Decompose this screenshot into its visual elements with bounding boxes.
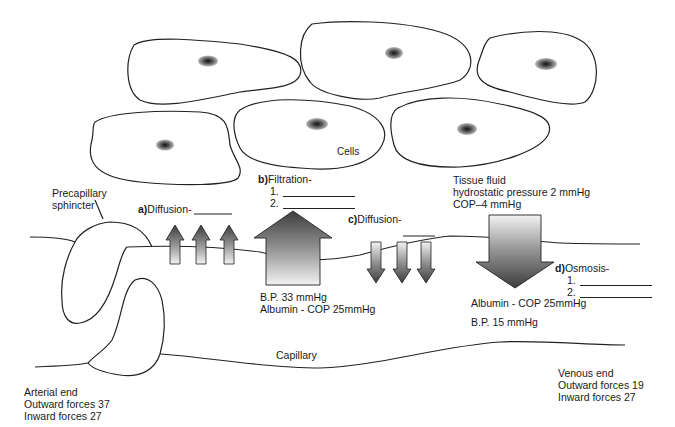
cell-3	[477, 32, 596, 105]
arterial-pressures: B.P. 33 mmHg Albumin - COP 25mmHg	[260, 291, 375, 315]
precapillary-sphincter-label: Precapillary sphincter	[52, 187, 107, 211]
label-b-text: Filtration-	[268, 173, 312, 185]
arrow-up-icon	[192, 225, 210, 264]
filtration-item-2: 2.	[270, 197, 279, 209]
nucleus-icon	[535, 58, 557, 70]
cell-2	[300, 22, 470, 100]
cells-label: Cells	[337, 146, 359, 158]
tissue-cells	[90, 22, 596, 185]
capillary-diagram	[0, 0, 675, 427]
venous-cop: Albumin - COP 25mmHg	[471, 297, 586, 309]
arrow-up-icon	[166, 225, 184, 264]
tissue-fluid-hydrostatic: hydrostatic pressure 2 mmHg	[453, 186, 590, 198]
arterial-cop: Albumin - COP 25mmHg	[260, 303, 375, 315]
nucleus-icon	[457, 123, 477, 135]
capillary-label: Capillary	[276, 349, 317, 361]
filtration-blank-2[interactable]	[283, 207, 355, 209]
diffusion-arrows-a	[166, 225, 238, 264]
arterial-upper-wall	[30, 237, 75, 242]
precapillary-label-line1: Precapillary	[52, 187, 107, 199]
arterial-end-title: Arterial end	[24, 386, 110, 398]
nucleus-icon	[306, 118, 328, 130]
big-arrow-up-icon	[254, 211, 332, 285]
capillary-vessel	[30, 200, 640, 376]
precapillary-sphincter-upper	[62, 222, 152, 323]
tissue-fluid-label: Tissue fluid hydrostatic pressure 2 mmHg…	[453, 174, 590, 210]
nucleus-icon	[198, 56, 218, 67]
arrow-down-icon	[367, 242, 385, 283]
filtration-arrow	[254, 211, 332, 285]
osmosis-item-1: 1.	[567, 274, 576, 286]
label-d-text: Osmosis-	[565, 262, 609, 274]
cell-5	[234, 100, 385, 169]
arterial-lower-wall	[35, 363, 88, 367]
letter-c: c)	[348, 213, 357, 225]
arrow-down-icon	[417, 242, 435, 283]
label-c-text: Diffusion-	[357, 213, 401, 225]
filtration-item-1: 1.	[270, 185, 279, 197]
venous-end-outward: Outward forces 19	[558, 379, 644, 391]
tissue-fluid-title: Tissue fluid	[453, 174, 590, 186]
arterial-bp: B.P. 33 mmHg	[260, 291, 375, 303]
arterial-end-outward: Outward forces 37	[24, 398, 110, 410]
tissue-fluid-cop: COP–4 mmHg	[453, 198, 590, 210]
precapillary-label-line2: sphincter	[52, 199, 107, 211]
venous-end-inward: Inward forces 27	[558, 391, 644, 403]
arrow-up-icon	[220, 225, 238, 264]
diffusion-arrows-c	[367, 242, 435, 283]
venous-end-title: Venous end	[558, 367, 644, 379]
label-d-osmosis: d)Osmosis- 1. 2.	[555, 262, 652, 298]
label-a-diffusion: a)Diffusion-	[138, 203, 192, 215]
label-c-diffusion: c)Diffusion-	[348, 213, 402, 225]
letter-d: d)	[555, 262, 565, 274]
venous-end-info: Venous end Outward forces 19 Inward forc…	[558, 367, 644, 403]
letter-b: b)	[258, 173, 268, 185]
letter-a: a)	[138, 203, 147, 215]
osmosis-blank-2[interactable]	[580, 296, 652, 298]
nucleus-icon	[156, 140, 174, 151]
big-arrow-down-icon	[476, 215, 554, 288]
venous-bp: B.P. 15 mmHg	[471, 316, 538, 328]
label-b-filtration: b)Filtration- 1. 2.	[258, 173, 355, 209]
nucleus-icon	[385, 47, 403, 59]
precapillary-sphincter-lower	[88, 278, 164, 375]
arterial-end-info: Arterial end Outward forces 37 Inward fo…	[24, 386, 110, 422]
osmosis-arrow	[476, 215, 554, 288]
capillary-lower-wall	[160, 342, 625, 368]
arrow-down-icon	[393, 242, 411, 283]
arterial-end-inward: Inward forces 27	[24, 410, 110, 422]
cell-1	[128, 39, 301, 104]
label-a-text: Diffusion-	[147, 203, 191, 215]
